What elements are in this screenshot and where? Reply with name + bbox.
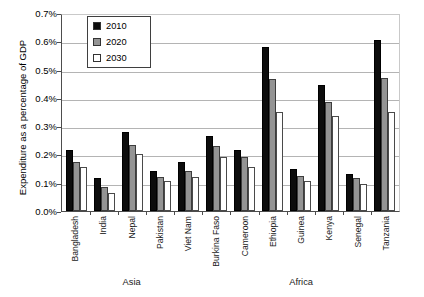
bar	[164, 181, 171, 211]
x-tick-label: Cameroon	[240, 216, 250, 256]
bar	[220, 157, 227, 211]
y-tick-mark	[57, 155, 61, 156]
bar	[129, 145, 136, 211]
bar	[276, 112, 283, 211]
x-tick-label: Bangladesh	[70, 216, 80, 261]
bar-group	[287, 15, 315, 211]
x-tick-mark	[90, 211, 91, 215]
x-label-cell: Bangladesh	[61, 216, 89, 274]
x-tick-mark	[146, 211, 147, 215]
bar	[248, 167, 255, 211]
y-tick-label: 0.3%	[13, 122, 57, 132]
bar	[108, 193, 115, 211]
bar	[318, 85, 325, 211]
x-tick-mark	[202, 211, 203, 215]
y-tick-label: 0.1%	[13, 179, 57, 189]
x-tick-mark	[230, 211, 231, 215]
bar	[346, 174, 353, 211]
bar-group	[230, 15, 258, 211]
x-label-cell: Cameroon	[231, 216, 259, 274]
bar-group	[202, 15, 230, 211]
y-tick-mark	[57, 127, 61, 128]
bar	[185, 171, 192, 211]
x-tick-mark	[259, 211, 260, 215]
x-label-cell: Kenya	[315, 216, 343, 274]
x-axis-labels: BangladeshIndiaNepalPakistanViet NamBurk…	[61, 216, 400, 274]
bar	[66, 150, 73, 211]
legend: 201020202030	[87, 16, 151, 68]
bar	[241, 157, 248, 211]
x-label-cell: Pakistan	[146, 216, 174, 274]
y-tick-mark	[57, 184, 61, 185]
bar-group	[371, 15, 399, 211]
x-tick-mark	[371, 211, 372, 215]
x-label-cell: Guinea	[287, 216, 315, 274]
x-tick-label: Pakistan	[155, 216, 165, 249]
bar	[374, 40, 381, 211]
x-tick-mark	[174, 211, 175, 215]
bar	[206, 136, 213, 211]
legend-swatch-icon	[93, 54, 101, 62]
legend-label: 2010	[106, 21, 127, 31]
y-tick-mark	[57, 212, 61, 213]
bar	[234, 150, 241, 211]
bar-group	[315, 15, 343, 211]
bar	[388, 112, 395, 211]
y-tick-label: 0.4%	[13, 94, 57, 104]
bar	[325, 102, 332, 211]
bar	[360, 184, 367, 211]
x-tick-label: Ethiopia	[268, 216, 278, 247]
legend-item: 2020	[93, 37, 145, 47]
x-tick-label: Tanzania	[381, 216, 391, 250]
bar	[94, 178, 101, 211]
bar-group	[259, 15, 287, 211]
bar	[290, 169, 297, 211]
bar	[192, 177, 199, 211]
x-tick-mark	[287, 211, 288, 215]
x-label-cell: India	[89, 216, 117, 274]
bar	[178, 162, 185, 212]
bar	[269, 79, 276, 211]
bar	[80, 167, 87, 211]
x-tick-label: Nepal	[127, 216, 137, 238]
bar	[157, 177, 164, 211]
x-label-cell: Viet Nam	[174, 216, 202, 274]
bar-group	[62, 15, 90, 211]
y-tick-label: 0.6%	[13, 37, 57, 47]
legend-label: 2020	[106, 37, 127, 47]
bar	[136, 154, 143, 211]
y-tick-label: 0.0%	[13, 207, 57, 217]
y-tick-mark	[57, 71, 61, 72]
x-tick-mark	[315, 211, 316, 215]
x-tick-label: Kenya	[324, 216, 334, 240]
y-tick-label: 0.2%	[13, 150, 57, 160]
region-label: Asia	[92, 277, 172, 287]
bar	[262, 47, 269, 211]
x-label-cell: Burkina Faso	[202, 216, 230, 274]
legend-item: 2030	[93, 53, 145, 63]
bar	[332, 116, 339, 211]
bar	[101, 187, 108, 211]
x-tick-label: India	[98, 216, 108, 235]
legend-swatch-icon	[93, 38, 101, 46]
region-label: Africa	[261, 277, 341, 287]
x-tick-label: Guinea	[296, 216, 306, 244]
bar-group	[174, 15, 202, 211]
bar	[353, 178, 360, 211]
y-tick-mark	[57, 42, 61, 43]
bar	[73, 162, 80, 212]
y-tick-mark	[57, 99, 61, 100]
y-tick-label: 0.7%	[13, 9, 57, 19]
bar	[150, 171, 157, 211]
bar	[213, 146, 220, 211]
x-label-cell: Senegal	[344, 216, 372, 274]
bar	[381, 78, 388, 211]
bar	[297, 176, 304, 211]
x-tick-mark	[118, 211, 119, 215]
y-tick-mark	[57, 14, 61, 15]
legend-swatch-icon	[93, 22, 101, 30]
x-tick-mark	[343, 211, 344, 215]
bar-chart: Expenditure as a percentage of GDP 0.7%0…	[0, 0, 424, 297]
legend-item: 2010	[93, 21, 145, 31]
x-label-cell: Ethiopia	[259, 216, 287, 274]
